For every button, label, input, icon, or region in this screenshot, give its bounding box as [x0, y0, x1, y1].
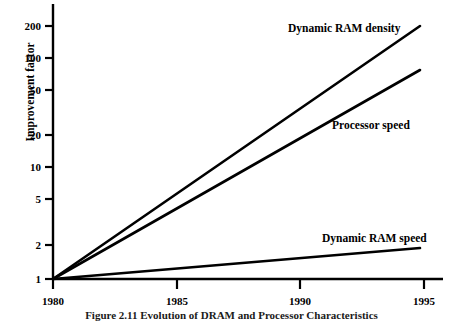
chart-plot-area — [0, 0, 463, 322]
series-label-dynamic-ram-density: Dynamic RAM density — [288, 23, 400, 35]
series-label-processor-speed: Processor speed — [332, 120, 410, 132]
series-line-processor-speed — [53, 70, 420, 279]
y-tick-label-1: 1 — [4, 274, 41, 285]
x-axis-ticks — [53, 279, 424, 289]
y-tick-label-200: 200 — [4, 21, 41, 32]
series-label-dynamic-ram-speed: Dynamic RAM speed — [322, 233, 427, 245]
series-line-dynamic-ram-speed — [53, 248, 420, 279]
x-tick-label-1985: 1985 — [166, 296, 188, 307]
y-tick-label-2: 2 — [4, 240, 41, 251]
x-tick-label-1995: 1995 — [413, 296, 435, 307]
figure-container: Improvement factor 200 100 50 20 10 5 2 … — [0, 0, 463, 322]
figure-caption: Figure 2.11 Evolution of DRAM and Proces… — [0, 309, 463, 322]
y-tick-label-50: 50 — [4, 85, 41, 96]
y-tick-label-20: 20 — [4, 130, 41, 141]
x-tick-label-1980: 1980 — [42, 296, 64, 307]
y-tick-label-10: 10 — [4, 162, 41, 173]
y-tick-label-100: 100 — [4, 53, 41, 64]
x-tick-label-1990: 1990 — [289, 296, 311, 307]
y-tick-label-5: 5 — [4, 194, 41, 205]
